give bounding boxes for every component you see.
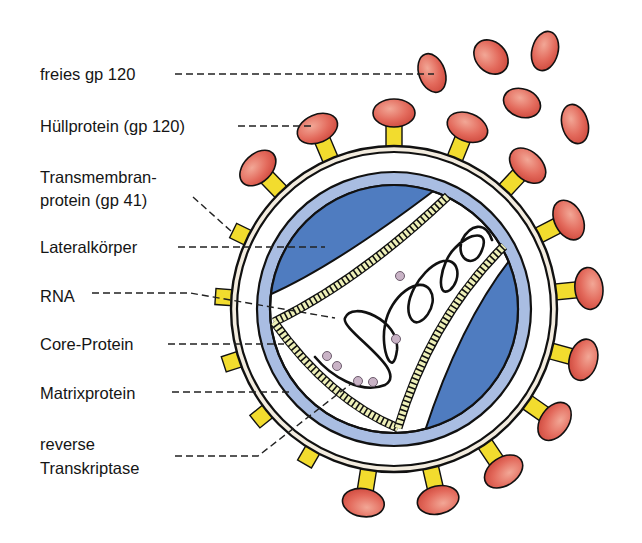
free-gp120-oval	[557, 101, 592, 146]
label-huellprotein: Hüllprotein (gp 120)	[40, 115, 185, 137]
label-reverse-transkriptase-line1: reverse	[40, 433, 95, 455]
free-gp120-oval	[467, 33, 515, 81]
label-lateralkoerper: Lateralkörper	[40, 236, 137, 258]
free-gp120-oval	[527, 28, 562, 73]
label-freies-gp120: freies gp 120	[40, 63, 135, 85]
free-gp120-oval	[499, 83, 544, 122]
free-gp120-group	[413, 28, 593, 146]
label-transmembranprotein-line1: Transmembran-	[40, 166, 157, 188]
label-rna: RNA	[40, 285, 75, 307]
label-transmembranprotein-line2: protein (gp 41)	[40, 189, 147, 211]
label-matrixprotein: Matrixprotein	[40, 382, 135, 404]
label-core-protein: Core-Protein	[40, 333, 134, 355]
free-gp120-oval	[413, 50, 451, 96]
label-reverse-transkriptase-line2: Transkriptase	[40, 457, 139, 479]
